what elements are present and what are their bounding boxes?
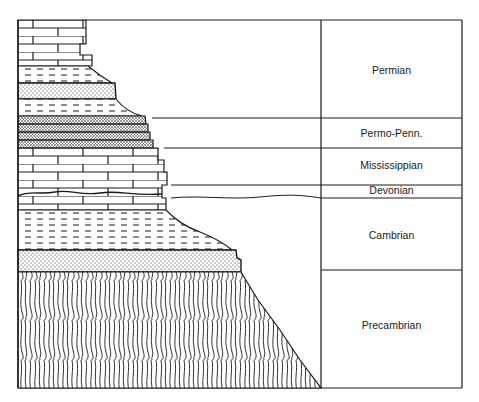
layer-shale-3 xyxy=(18,210,232,250)
period-label-permian: Permian xyxy=(321,64,462,76)
layer-lower-limestone xyxy=(18,148,167,210)
layer-sandstone-2 xyxy=(18,250,241,272)
layer-shale-2 xyxy=(18,99,142,116)
lithology-column xyxy=(18,20,321,388)
layer-upper-limestone xyxy=(18,20,92,66)
period-label-mississippian: Mississippian xyxy=(321,159,462,171)
stratigraphic-column-diagram xyxy=(0,0,479,402)
period-label-permo-penn: Permo-Penn. xyxy=(321,127,462,139)
period-label-precambrian: Precambrian xyxy=(321,319,462,331)
period-label-cambrian: Cambrian xyxy=(321,229,462,241)
layer-sandstone-1 xyxy=(18,83,116,99)
layer-shale-1 xyxy=(18,66,112,83)
layer-precambrian-basement xyxy=(18,272,321,388)
period-label-devonian: Devonian xyxy=(321,184,462,196)
